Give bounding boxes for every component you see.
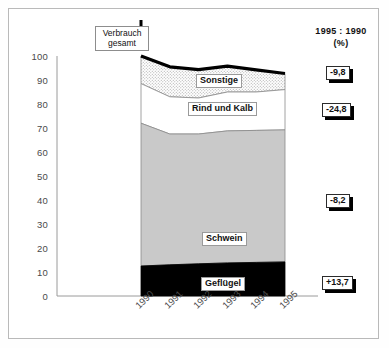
y-tick-60: 60 <box>22 147 48 158</box>
stacked-area-svg <box>0 0 389 348</box>
comparison-header-line2: (%) <box>306 38 376 48</box>
y-tick-80: 80 <box>22 99 48 110</box>
chart-plot-area <box>0 0 389 348</box>
series-label-gefluegel: Geflügel <box>201 277 245 291</box>
comparison-header-line1: 1995 : 1990 <box>306 26 376 36</box>
series-label-schwein: Schwein <box>202 232 247 246</box>
y-tick-50: 50 <box>22 171 48 182</box>
y-tick-70: 70 <box>22 123 48 134</box>
y-tick-100: 100 <box>22 51 48 62</box>
y-tick-30: 30 <box>22 219 48 230</box>
y-tick-10: 10 <box>22 267 48 278</box>
y-tick-90: 90 <box>22 75 48 86</box>
series-label-rind-und-kalb: Rind und Kalb <box>188 102 257 116</box>
y-tick-0: 0 <box>22 291 48 302</box>
y-tick-40: 40 <box>22 195 48 206</box>
callout-line2: gesamt <box>99 38 145 48</box>
chart-page: 100 90 80 70 60 50 40 30 20 10 0 1990 19… <box>0 0 389 348</box>
badge-sonstige: -9,8 <box>326 66 350 80</box>
total-line-callout: Verbrauch gesamt <box>95 26 149 51</box>
series-label-sonstige: Sonstige <box>196 74 242 88</box>
y-tick-20: 20 <box>22 243 48 254</box>
callout-line1: Verbrauch <box>99 28 145 38</box>
badge-gefluegel: +13,7 <box>322 276 353 290</box>
badge-schwein: -8,2 <box>326 194 350 208</box>
badge-rind-und-kalb: -24,8 <box>322 103 351 117</box>
